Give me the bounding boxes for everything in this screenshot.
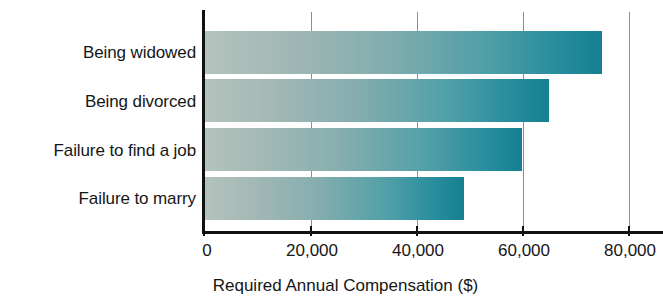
bar-chart: Being widowed Being divorced Failure to … <box>0 0 663 305</box>
tick-label-80000: 80,000 <box>604 241 656 261</box>
category-label-failure-to-find-a-job: Failure to find a job <box>0 142 196 159</box>
bar-failure-to-find-a-job <box>204 128 522 171</box>
tick-label-60000: 60,000 <box>498 241 550 261</box>
gridline-80000 <box>629 12 630 232</box>
category-label-being-widowed: Being widowed <box>0 44 196 61</box>
x-axis-title: Required Annual Compensation ($) <box>0 276 663 296</box>
x-axis-line <box>202 231 663 234</box>
y-axis-line <box>202 10 205 233</box>
tick-mark-0 <box>203 226 205 236</box>
tick-mark-80000 <box>628 226 630 236</box>
plot-area <box>204 12 631 232</box>
category-label-being-divorced: Being divorced <box>0 93 196 110</box>
tick-mark-60000 <box>522 226 524 236</box>
bar-being-widowed <box>204 31 602 74</box>
tick-mark-40000 <box>416 226 418 236</box>
tick-label-0: 0 <box>202 241 211 261</box>
tick-label-20000: 20,000 <box>286 241 338 261</box>
category-label-failure-to-marry: Failure to marry <box>0 190 196 207</box>
bar-being-divorced <box>204 79 549 122</box>
bar-failure-to-marry <box>204 177 464 220</box>
category-axis-labels: Being widowed Being divorced Failure to … <box>0 0 196 240</box>
tick-label-40000: 40,000 <box>392 241 444 261</box>
tick-mark-20000 <box>310 226 312 236</box>
